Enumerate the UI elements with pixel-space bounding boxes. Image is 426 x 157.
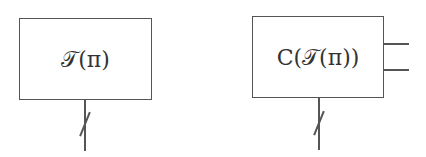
block-t-pi: 𝒯(π) <box>19 18 152 100</box>
block-c-t-pi-output-2-wire <box>383 69 409 71</box>
block-c-t-pi: C(𝒯(π)) <box>252 16 384 98</box>
block-t-pi-label: 𝒯(π) <box>61 47 110 72</box>
block-c-t-pi-output-1-wire <box>383 43 409 45</box>
block-c-t-pi-label: C(𝒯(π)) <box>277 45 360 70</box>
